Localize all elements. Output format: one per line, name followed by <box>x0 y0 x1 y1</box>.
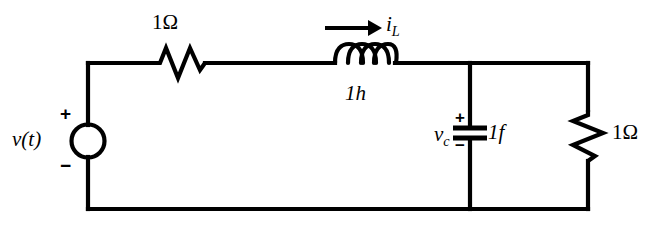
load-resistor-label: 1Ω <box>612 122 638 143</box>
load-resistor-symbol <box>573 110 603 161</box>
circuit-schematic-svg <box>0 0 669 227</box>
inductor-value-label: 1h <box>345 83 366 104</box>
capacitor-voltage-subscript: c <box>443 133 449 149</box>
inductor-current-subscript: L <box>392 23 400 39</box>
capacitor-minus-sign: − <box>455 137 465 154</box>
capacitor-value-label: 1f <box>488 122 504 143</box>
inductor-current-arrow <box>325 20 382 36</box>
rlc-circuit-figure: 1Ω 1Ω 1h 1f iL vc v(t) + − + − <box>0 0 669 227</box>
voltage-source-label: v(t) <box>12 129 41 150</box>
capacitor-plus-sign: + <box>455 109 465 126</box>
capacitor-voltage-symbol: v <box>434 122 443 146</box>
source-minus-sign: − <box>60 156 71 175</box>
inductor-current-label: iL <box>386 14 400 38</box>
series-resistor-symbol <box>155 48 205 78</box>
source-plus-sign: + <box>60 104 71 123</box>
capacitor-voltage-label: vc <box>434 124 450 148</box>
series-resistor-label: 1Ω <box>152 12 178 33</box>
voltage-source-symbol <box>72 125 105 158</box>
